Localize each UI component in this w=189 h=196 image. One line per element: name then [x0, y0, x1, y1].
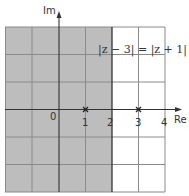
- imaginary-axis-label: Im: [43, 5, 56, 16]
- tick-label-3: 3: [135, 117, 141, 128]
- imaginary-axis-arrow-icon: [57, 11, 62, 18]
- real-axis-arrow-icon: [175, 107, 182, 112]
- tick-label-4: 4: [161, 117, 167, 128]
- tick-label-2: 2: [107, 117, 113, 128]
- tick-label-0: 0: [50, 111, 56, 122]
- complex-plane-diagram: Im Re 0 1 2 3 4 |z − 3| = |z + 1|: [0, 0, 189, 196]
- equation-label: |z − 3| = |z + 1|: [98, 43, 187, 57]
- real-axis-label: Re: [174, 114, 187, 125]
- tick-label-1: 1: [82, 117, 88, 128]
